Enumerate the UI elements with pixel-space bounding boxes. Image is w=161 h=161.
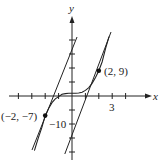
y-tick-label-neg10: −10 <box>49 119 66 130</box>
point-neg2-neg7 <box>43 113 48 118</box>
point-2-9 <box>97 69 102 74</box>
point-label-neg2-neg7: (−2, −7) <box>1 111 37 122</box>
x-tick-label-3: 3 <box>109 102 115 113</box>
graph-canvas <box>0 0 161 161</box>
y-axis-arrow-icon <box>70 16 75 23</box>
x-axis-arrow-icon <box>145 94 152 99</box>
point-label-2-9: (2, 9) <box>104 66 128 77</box>
x-axis-label: x <box>153 91 158 102</box>
y-axis-label: y <box>69 3 74 14</box>
